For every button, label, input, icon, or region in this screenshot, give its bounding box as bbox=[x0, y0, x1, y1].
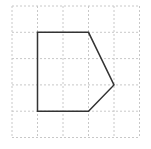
pentagon-shape bbox=[38, 32, 115, 111]
grid bbox=[12, 6, 140, 138]
grid-diagram bbox=[0, 0, 151, 149]
